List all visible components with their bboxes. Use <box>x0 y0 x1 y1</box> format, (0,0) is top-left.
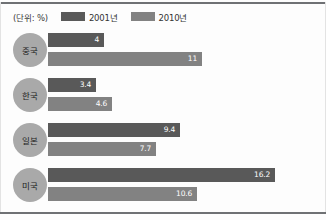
legend-item-2001: 2001년 <box>61 11 118 23</box>
legend-swatch-2001 <box>61 12 85 21</box>
bar-pair: 3.44.6 <box>48 73 326 118</box>
chart-group: 미국16.210.6 <box>0 163 326 208</box>
bar-2001년: 4 <box>48 33 104 47</box>
bar-value-label: 3.4 <box>80 81 91 89</box>
bar-2010년: 11 <box>48 52 202 66</box>
category-bubble-1: 중국 <box>13 33 47 67</box>
bar-2010년: 10.6 <box>48 187 197 201</box>
bar-pair: 16.210.6 <box>48 163 326 208</box>
bar-value-label: 16.2 <box>254 171 270 179</box>
category-label: 미국 <box>22 179 37 191</box>
category-bubble-2: 한국 <box>13 78 47 112</box>
bar-value-label: 9.4 <box>164 126 175 134</box>
chart-group: 한국3.44.6 <box>0 73 326 118</box>
legend-label-2010: 2010년 <box>159 11 188 23</box>
chart-group: 일본9.47.7 <box>0 118 326 163</box>
unit-label: (단위: %) <box>13 11 48 23</box>
legend-item-2010: 2010년 <box>131 11 188 23</box>
plot-area: 중국411한국3.44.6일본9.47.7미국16.210.6 <box>0 28 326 210</box>
bar-value-label: 11 <box>188 55 197 63</box>
category-label: 일본 <box>22 134 37 146</box>
category-bubble-4: 미국 <box>13 168 47 202</box>
bar-2010년: 4.6 <box>48 97 112 111</box>
bar-2001년: 16.2 <box>48 168 275 182</box>
bar-value-label: 4 <box>94 36 99 44</box>
bar-2001년: 9.4 <box>48 123 180 137</box>
chart-legend: (단위: %) 2001년 2010년 <box>13 10 187 23</box>
bar-pair: 411 <box>48 28 326 73</box>
legend-label-2001: 2001년 <box>89 11 118 23</box>
bar-pair: 9.47.7 <box>48 118 326 163</box>
legend-swatch-2010 <box>131 12 155 21</box>
bar-2010년: 7.7 <box>48 142 156 156</box>
bar-2001년: 3.4 <box>48 78 96 92</box>
bar-value-label: 7.7 <box>140 145 151 153</box>
category-label: 중국 <box>22 44 37 56</box>
bar-value-label: 10.6 <box>176 190 192 198</box>
bar-value-label: 4.6 <box>96 100 107 108</box>
bottom-rule <box>0 212 326 214</box>
chart-figure: (단위: %) 2001년 2010년 중국411한국3.44.6일본9.47.… <box>0 0 326 220</box>
category-bubble-3: 일본 <box>13 123 47 157</box>
category-label: 한국 <box>22 89 37 101</box>
chart-group: 중국411 <box>0 28 326 73</box>
top-rule <box>0 2 326 4</box>
